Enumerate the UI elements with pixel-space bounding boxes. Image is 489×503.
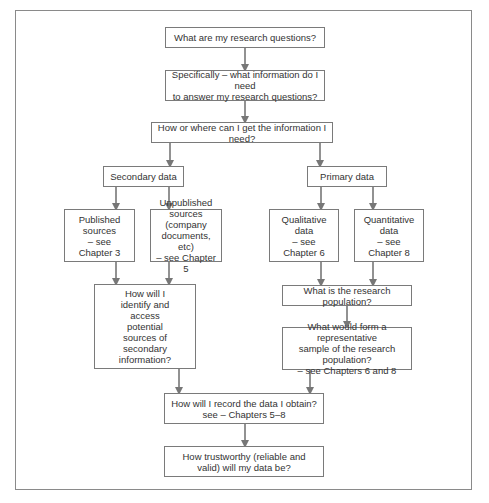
node-secondary-data: Secondary data bbox=[103, 166, 184, 187]
node-qualitative-data: Qualitative data – see Chapter 6 bbox=[269, 209, 339, 262]
node-primary-data: Primary data bbox=[307, 166, 387, 187]
node-information-needed: Specifically – what information do I nee… bbox=[165, 70, 325, 101]
node-representative-sample: What would form a representative sample … bbox=[282, 327, 412, 370]
node-research-population: What is the research population? bbox=[282, 285, 412, 306]
node-trustworthy: How trustworthy (reliable and valid) wil… bbox=[164, 446, 324, 477]
node-quantitative-data: Quantitative data – see Chapter 8 bbox=[354, 209, 424, 262]
node-record-data: How will I record the data I obtain? see… bbox=[164, 393, 324, 424]
node-how-where: How or where can I get the information I… bbox=[151, 122, 333, 143]
node-unpublished-sources: Unpublished sources (company documents, … bbox=[150, 209, 222, 262]
node-identify-access: How will I identify and access potential… bbox=[94, 284, 196, 369]
node-research-questions: What are my research questions? bbox=[165, 27, 325, 48]
node-published-sources: Published sources – see Chapter 3 bbox=[64, 209, 135, 262]
